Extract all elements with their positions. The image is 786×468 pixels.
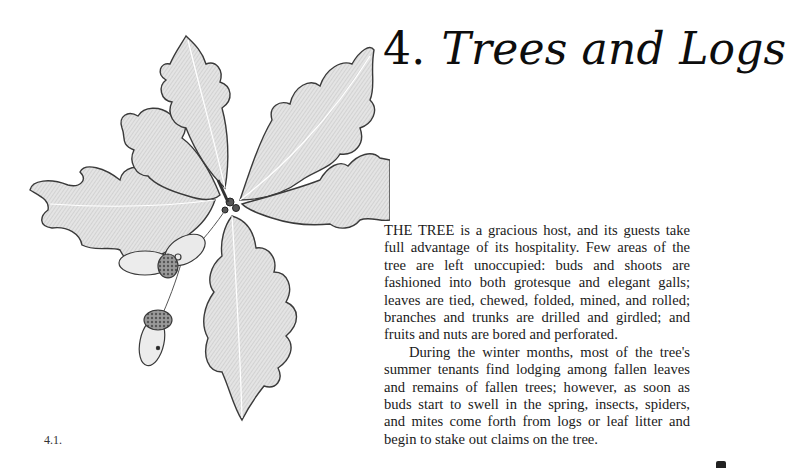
- figure-caption: 4.1.: [44, 433, 62, 448]
- paragraph-2: During the winter months, most of the tr…: [384, 344, 690, 448]
- oak-leaf-illustration: [10, 20, 390, 440]
- paragraph-1: THE TREE is a gracious host, and its gue…: [384, 222, 690, 344]
- page-edge-mark: [716, 461, 726, 468]
- body-text: THE TREE is a gracious host, and its gue…: [384, 222, 690, 448]
- leaf-bottom: [204, 216, 297, 420]
- twig-cluster: [218, 180, 240, 213]
- chapter-title: 4.Trees and Logs: [383, 22, 786, 76]
- chapter-title-text: Trees and Logs: [441, 23, 786, 74]
- acorn-lower: [135, 310, 172, 368]
- acorn-middle: [119, 251, 178, 278]
